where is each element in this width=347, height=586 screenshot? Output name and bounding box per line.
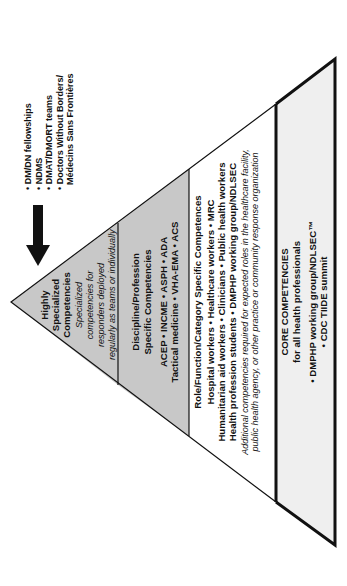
- tier-title-line: Discipline/Profession: [131, 212, 143, 392]
- external-list-item: • DMAT/DMORT teams: [45, 73, 56, 190]
- tier-highly-specialized: Highly Specialized Competencies Speciali…: [40, 250, 119, 360]
- external-list: • DM/DN fellowships • NDMS • DMAT/DMORT …: [24, 73, 77, 190]
- tier-desc-line: public health agency, or other practice …: [251, 132, 262, 472]
- external-list-item: • DM/DN fellowships: [24, 73, 35, 190]
- external-list-item: Médecins Sans Frontières: [66, 73, 77, 190]
- tier-item-line: • DMPHP working group/NDLSEC™: [308, 212, 319, 392]
- tier-title-line: Specific Competencies: [143, 212, 159, 392]
- tier-core: CORE COMPETENCIES for all health profess…: [280, 212, 330, 392]
- tier-item-line: Health profession students • DMPHP worki…: [228, 132, 241, 472]
- tier-discipline: Discipline/Profession Specific Competenc…: [131, 212, 182, 392]
- tier-item-line: Tactical medicine • VHA-EMA • ACS: [170, 212, 182, 392]
- tier-desc-line: regularly as teams or individually: [108, 250, 119, 360]
- tier-item-line: • CDC TIIDE summit: [319, 212, 330, 392]
- tier-role: Role/Function/Category Specific Competen…: [193, 132, 262, 472]
- tier-item-line: Humanitarian aid workers • Clinicians • …: [217, 132, 228, 472]
- tier-title-line: CORE COMPETENCIES: [280, 212, 292, 392]
- tier-title-line: for all health professionals: [292, 212, 308, 392]
